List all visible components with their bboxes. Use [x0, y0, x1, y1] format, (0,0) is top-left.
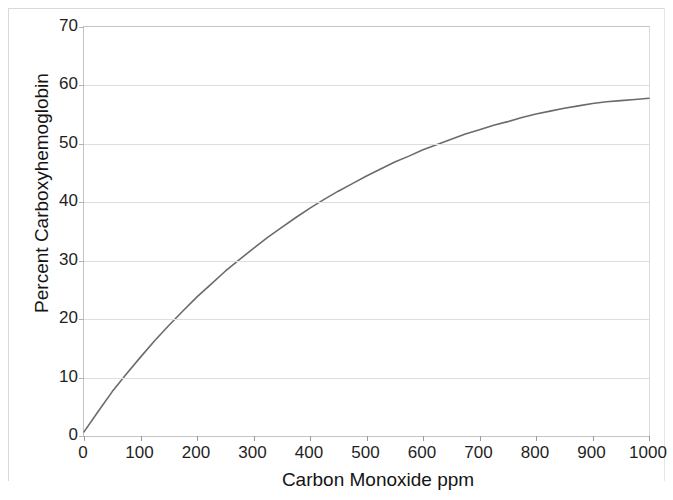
x-tick-mark-300: [254, 436, 255, 441]
x-tick-mark-800: [536, 436, 537, 441]
data-curve-svg: [84, 27, 649, 436]
y-tick-mark-70: [79, 27, 84, 28]
gridline-y-60: [84, 85, 649, 86]
x-axis-title: Carbon Monoxide ppm: [0, 469, 673, 491]
y-tick-mark-50: [79, 144, 84, 145]
x-tick-mark-0: [84, 436, 85, 441]
x-tick-mark-200: [197, 436, 198, 441]
x-tick-mark-100: [141, 436, 142, 441]
carboxyhemoglobin-curve: [84, 98, 649, 432]
y-tick-label-10: 10: [38, 368, 78, 385]
x-tick-mark-1000: [649, 436, 650, 441]
x-tick-mark-900: [593, 436, 594, 441]
x-tick-mark-400: [310, 436, 311, 441]
x-tick-mark-600: [423, 436, 424, 441]
y-axis-tick-labels: 010203040506070: [30, 0, 78, 500]
y-tick-mark-20: [79, 319, 84, 320]
figure-outer-border-right: [664, 8, 665, 481]
y-tick-label-50: 50: [38, 134, 78, 151]
gridline-y-20: [84, 319, 649, 320]
gridline-y-30: [84, 261, 649, 262]
y-tick-mark-40: [79, 202, 84, 203]
gridline-y-40: [84, 202, 649, 203]
x-tick-mark-500: [367, 436, 368, 441]
gridline-y-50: [84, 144, 649, 145]
chart-figure: Percent Carboxyhemoglobin 01020304050607…: [0, 0, 673, 500]
x-tick-label-1000: 1000: [613, 443, 673, 463]
y-tick-label-0: 0: [38, 426, 78, 443]
y-tick-mark-30: [79, 261, 84, 262]
x-tick-mark-700: [480, 436, 481, 441]
plot-area: [83, 26, 650, 437]
y-tick-label-20: 20: [38, 309, 78, 326]
y-tick-label-30: 30: [38, 251, 78, 268]
y-tick-mark-60: [79, 85, 84, 86]
y-tick-label-70: 70: [38, 17, 78, 34]
x-axis-tick-labels: 01002003004005006007008009001000: [0, 443, 673, 467]
y-tick-mark-10: [79, 378, 84, 379]
gridline-y-10: [84, 378, 649, 379]
y-tick-label-60: 60: [38, 75, 78, 92]
y-tick-label-40: 40: [38, 192, 78, 209]
